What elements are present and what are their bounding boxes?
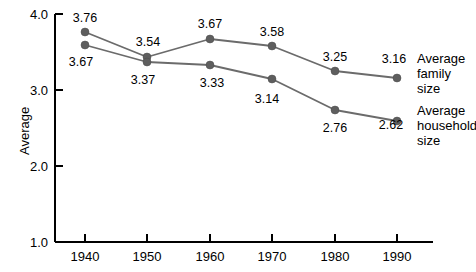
data-point-family-1940 [81, 28, 89, 36]
value-label-family-1970: 3.58 [250, 26, 294, 39]
y-tick-label-3: 3.0 [18, 84, 48, 97]
legend-family-line1: Average [417, 52, 465, 65]
value-label-family-1990: 3.16 [372, 53, 416, 66]
value-label-family-1960: 3.67 [188, 18, 232, 31]
value-label-household-1970: 3.14 [245, 93, 289, 106]
data-point-family-1970 [268, 42, 276, 50]
legend-household-line1: Average [417, 104, 465, 117]
legend-family-line2: family [417, 67, 451, 80]
legend-family-line3: size [417, 82, 440, 95]
x-tick-label-1990: 1990 [372, 250, 422, 263]
x-tick-label-1970: 1970 [247, 250, 297, 263]
value-label-family-1940: 3.76 [63, 12, 107, 25]
y-axis-title: Average [18, 107, 31, 155]
value-label-household-1940: 3.67 [59, 56, 103, 69]
x-tick-label-1980: 1980 [310, 250, 360, 263]
value-label-household-1980: 2.76 [313, 122, 357, 135]
y-tick-label-2: 2.0 [18, 160, 48, 173]
data-point-household-1940 [81, 41, 89, 49]
value-label-household-1950: 3.37 [121, 74, 165, 87]
data-point-family-1980 [331, 67, 339, 75]
data-point-family-1960 [206, 35, 214, 43]
data-point-household-1980 [331, 106, 339, 114]
value-label-family-1950: 3.54 [126, 36, 170, 49]
x-tick-label-1940: 1940 [60, 250, 110, 263]
legend-household-line3: size [417, 134, 440, 147]
plot-area [0, 0, 476, 272]
y-tick-label-4: 4.0 [18, 8, 48, 21]
y-tick-label-1: 1.0 [18, 236, 48, 249]
chart-container: Average 4.0 3.0 2.0 1.0 1940 1950 1960 1… [0, 0, 476, 272]
value-label-household-1990: 2.62 [369, 119, 413, 132]
value-label-household-1960: 3.33 [190, 77, 234, 90]
data-point-family-1990 [393, 74, 401, 82]
data-point-household-1950 [143, 58, 151, 66]
data-point-household-1960 [206, 61, 214, 69]
data-point-household-1970 [268, 75, 276, 83]
legend-household-line2: household [417, 119, 476, 132]
value-label-family-1980: 3.25 [313, 51, 357, 64]
x-tick-label-1950: 1950 [122, 250, 172, 263]
x-tick-label-1960: 1960 [185, 250, 235, 263]
